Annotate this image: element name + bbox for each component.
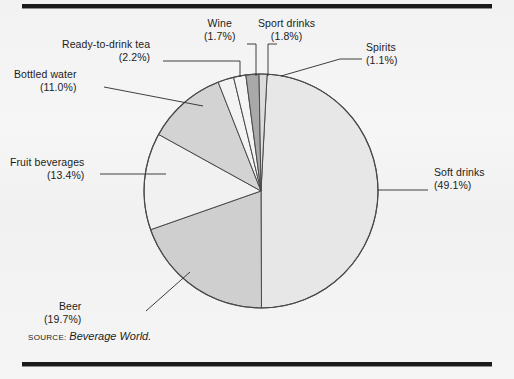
- slice-label-beer: Beer (19.7%): [44, 300, 81, 325]
- slice-label-percent: (13.4%): [10, 169, 84, 182]
- slice-label-text: Bottled water: [14, 68, 77, 80]
- slice-label-fruit-beverages: Fruit beverages (13.4%): [10, 156, 84, 181]
- slice-label-spirits: Spirits (1.1%): [366, 41, 398, 66]
- leader-line-beer: [146, 272, 190, 311]
- slice-label-percent: (1.8%): [258, 30, 315, 43]
- slice-label-soft-drinks: Soft drinks (49.1%): [434, 166, 485, 191]
- slice-label-percent: (2.2%): [62, 51, 150, 64]
- leader-line-wine: [247, 44, 256, 76]
- pie-slice-soft-drinks: [261, 74, 378, 308]
- pie-slices-group: [144, 74, 378, 308]
- slice-label-text: Spirits: [366, 41, 396, 53]
- slice-label-percent: (49.1%): [434, 179, 485, 192]
- slice-label-bottled-water: Bottled water (11.0%): [14, 68, 77, 93]
- slice-label-text: Beer: [59, 300, 82, 312]
- slice-label-sport-drinks: Sport drinks (1.8%): [258, 17, 315, 42]
- slice-label-text: Fruit beverages: [10, 156, 84, 168]
- slice-label-text: Ready-to-drink tea: [62, 38, 150, 50]
- bottom-rule: [22, 362, 492, 366]
- figure-panel: Soft drinks (49.1%) Beer (19.7%) Fruit b…: [0, 0, 514, 379]
- slice-label-text: Soft drinks: [434, 166, 485, 178]
- source-publication: Beverage World.: [69, 330, 151, 342]
- slice-label-text: Wine: [208, 17, 232, 29]
- slice-label-percent: (1.1%): [366, 54, 398, 67]
- leader-line-sport-drinks: [268, 44, 277, 76]
- leader-line-spirits: [281, 59, 362, 76]
- leader-line-ready-to-drink-tea: [163, 61, 240, 77]
- slice-label-percent: (1.7%): [204, 30, 236, 43]
- slice-label-wine: Wine (1.7%): [204, 17, 236, 42]
- source-note: SOURCE: Beverage World.: [28, 330, 151, 342]
- slice-label-percent: (19.7%): [44, 313, 81, 326]
- leader-line-bottled-water: [104, 87, 203, 106]
- slice-label-percent: (11.0%): [14, 81, 77, 94]
- source-prefix: SOURCE:: [28, 333, 67, 342]
- slice-label-text: Sport drinks: [258, 17, 315, 29]
- slice-label-ready-to-drink-tea: Ready-to-drink tea (2.2%): [62, 38, 150, 63]
